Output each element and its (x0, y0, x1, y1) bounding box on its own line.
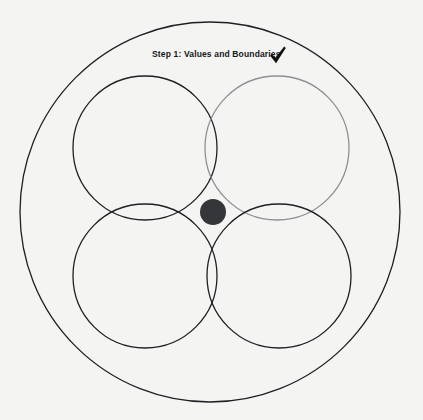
venn-diagram-svg (0, 0, 423, 420)
venn-diagram-canvas: Step 1: Values and Boundaries (0, 0, 423, 420)
core-dot (200, 199, 226, 225)
